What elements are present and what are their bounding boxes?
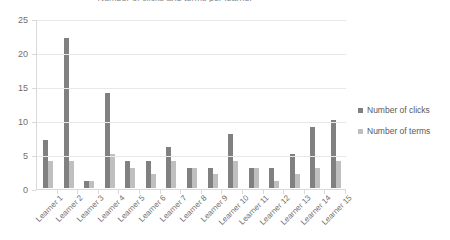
bar[interactable] [130,168,135,188]
legend-swatch-icon [358,108,363,113]
gridline [37,156,346,157]
bar-group[interactable] [38,20,59,188]
bar[interactable] [69,161,74,188]
bar-group[interactable] [182,20,203,188]
bar-chart: Number of clicks and terms per learner 0… [0,0,450,240]
y-axis-tick-label: 0 [23,186,28,195]
bar-group[interactable] [305,20,326,188]
legend-swatch-icon [358,129,363,134]
x-axis-labels: Learner 1Learner 2Learner 3Learner 4Lear… [36,194,346,240]
bar-group[interactable] [161,20,182,188]
bar[interactable] [315,168,320,188]
y-axis-tick-label: 10 [18,118,28,127]
bar-groups [38,20,346,188]
bar-group[interactable] [79,20,100,188]
bar[interactable] [192,168,197,188]
bar[interactable] [110,154,115,188]
y-axis-tick-label: 25 [18,16,28,25]
legend-item-terms: Number of terms [358,126,430,136]
bar[interactable] [171,161,176,188]
plot-area [36,20,346,190]
gridline [37,88,346,89]
gridline [37,20,346,21]
bar-group[interactable] [243,20,264,188]
y-axis: 0510152025 [0,20,32,190]
bar-group[interactable] [325,20,346,188]
bar-group[interactable] [59,20,80,188]
chart-title: Number of clicks and terms per learner [0,0,350,2]
bar[interactable] [254,168,259,188]
bar[interactable] [336,161,341,188]
legend-label-clicks: Number of clicks [367,105,430,115]
bar[interactable] [213,174,218,188]
bar-group[interactable] [100,20,121,188]
bar[interactable] [295,174,300,188]
y-axis-tick-mark [32,190,36,191]
chart-legend: Number of clicks Number of terms [358,105,430,147]
gridline [37,54,346,55]
gridline [37,122,346,123]
bar-group[interactable] [284,20,305,188]
bar[interactable] [274,181,279,188]
bar-group[interactable] [120,20,141,188]
bar-group[interactable] [141,20,162,188]
bar[interactable] [89,181,94,188]
y-axis-tick-label: 15 [18,84,28,93]
bar-group[interactable] [202,20,223,188]
bar[interactable] [233,161,238,188]
y-axis-tick-label: 5 [23,152,28,161]
legend-item-clicks: Number of clicks [358,105,430,115]
bar[interactable] [48,161,53,188]
legend-label-terms: Number of terms [367,126,430,136]
y-axis-tick-label: 20 [18,50,28,59]
bar-group[interactable] [264,20,285,188]
bar-group[interactable] [223,20,244,188]
bar[interactable] [151,174,156,188]
